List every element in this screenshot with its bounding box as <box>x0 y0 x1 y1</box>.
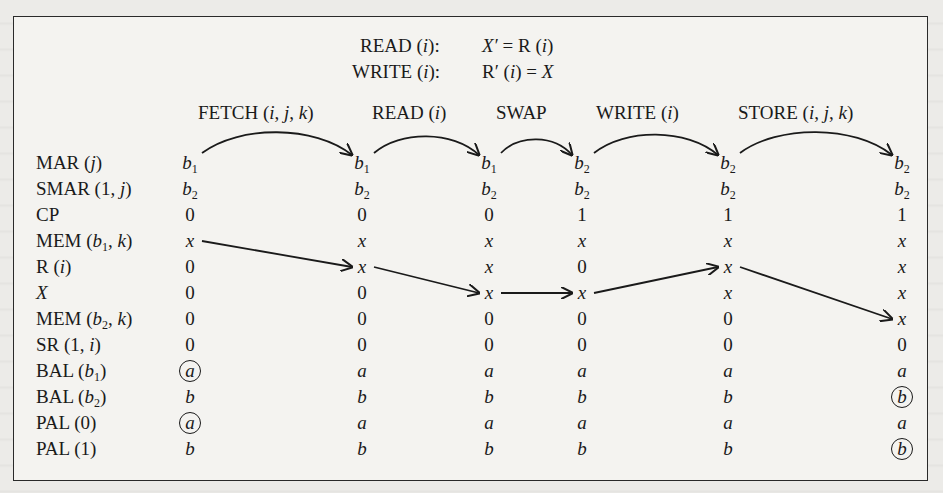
cell-value: x <box>562 230 602 252</box>
cell-value: 0 <box>342 204 382 226</box>
cell-value: a <box>170 412 210 434</box>
cell-value: b <box>469 438 509 460</box>
cell-value: b <box>882 438 922 460</box>
cell-value: 0 <box>708 308 748 330</box>
cell-value: x <box>342 230 382 252</box>
cell-value: 1 <box>708 204 748 226</box>
cell-value: x <box>708 282 748 304</box>
cell-value: x <box>708 230 748 252</box>
cell-value: 0 <box>342 334 382 356</box>
cell-value: 1 <box>882 204 922 226</box>
cell-value: x <box>342 256 382 278</box>
cell-value: 0 <box>170 308 210 330</box>
cell-value: a <box>708 412 748 434</box>
step-header-store: STORE (i, j, k) <box>738 102 853 124</box>
circled-value: a <box>179 412 201 434</box>
definition-read-op: READ (i): <box>360 35 440 57</box>
cell-value: b <box>170 438 210 460</box>
cell-value: x <box>882 308 922 330</box>
definition-write-op: WRITE (i): <box>352 61 440 83</box>
cell-value: x <box>469 282 509 304</box>
cell-value: b <box>882 386 922 408</box>
row-label: MEM (b1, k) <box>36 230 132 252</box>
cell-value: 0 <box>342 282 382 304</box>
cell-value: x <box>708 256 748 278</box>
row-label: X <box>36 282 48 304</box>
cell-value: x <box>882 230 922 252</box>
cell-value: a <box>562 360 602 382</box>
cell-value: b2 <box>342 178 382 200</box>
cell-value: b <box>562 386 602 408</box>
cell-value: 0 <box>469 308 509 330</box>
cell-value: 0 <box>170 334 210 356</box>
cell-value: b2 <box>562 152 602 174</box>
cell-value: b2 <box>469 178 509 200</box>
cell-value: a <box>342 360 382 382</box>
cell-value: b <box>342 386 382 408</box>
cell-value: 0 <box>342 308 382 330</box>
row-label: MAR (j) <box>36 152 102 174</box>
cell-value: b2 <box>708 152 748 174</box>
cell-value: b <box>708 386 748 408</box>
cell-value: x <box>170 230 210 252</box>
cell-value: 0 <box>882 334 922 356</box>
cell-value: a <box>562 412 602 434</box>
row-label: SMAR (1, j) <box>36 178 132 200</box>
cell-value: 0 <box>170 204 210 226</box>
cell-value: 0 <box>469 334 509 356</box>
cell-value: a <box>708 360 748 382</box>
row-label: R (i) <box>36 256 71 278</box>
row-label: CP <box>36 204 59 226</box>
cell-value: b1 <box>342 152 382 174</box>
definition-read-eq: X′ = R (i) <box>482 35 553 57</box>
row-label: BAL (b2) <box>36 386 106 408</box>
cell-value: 0 <box>562 308 602 330</box>
cell-value: a <box>342 412 382 434</box>
cell-value: 1 <box>562 204 602 226</box>
cell-value: x <box>882 282 922 304</box>
row-label: PAL (1) <box>36 438 96 460</box>
step-header-fetch: FETCH (i, j, k) <box>198 102 314 124</box>
circled-value: b <box>891 438 913 460</box>
cell-value: b <box>708 438 748 460</box>
cell-value: 0 <box>562 334 602 356</box>
cell-value: 0 <box>469 204 509 226</box>
cell-value: b2 <box>708 178 748 200</box>
cell-value: b1 <box>469 152 509 174</box>
row-label: MEM (b2, k) <box>36 308 132 330</box>
cell-value: x <box>562 282 602 304</box>
cell-value: a <box>469 360 509 382</box>
cell-value: b1 <box>170 152 210 174</box>
cell-value: a <box>882 412 922 434</box>
cell-value: b2 <box>170 178 210 200</box>
cell-value: 0 <box>170 282 210 304</box>
circled-value: a <box>179 360 201 382</box>
circled-value: b <box>891 386 913 408</box>
cell-value: 0 <box>170 256 210 278</box>
cell-value: a <box>170 360 210 382</box>
cell-value: b <box>170 386 210 408</box>
cell-value: x <box>882 256 922 278</box>
row-label: BAL (b1) <box>36 360 106 382</box>
row-label: PAL (0) <box>36 412 96 434</box>
cell-value: b <box>342 438 382 460</box>
cell-value: 0 <box>708 334 748 356</box>
cell-value: a <box>882 360 922 382</box>
cell-value: b <box>469 386 509 408</box>
cell-value: b2 <box>882 178 922 200</box>
cell-value: b <box>562 438 602 460</box>
step-header-write: WRITE (i) <box>596 102 679 124</box>
cell-value: x <box>469 256 509 278</box>
cell-value: a <box>469 412 509 434</box>
step-header-read: READ (i) <box>372 102 446 124</box>
step-header-swap: SWAP <box>496 102 547 124</box>
cell-value: 0 <box>562 256 602 278</box>
definition-write-eq: R′ (i) = X <box>482 61 553 83</box>
cell-value: x <box>469 230 509 252</box>
cell-value: b2 <box>562 178 602 200</box>
row-label: SR (1, i) <box>36 334 101 356</box>
cell-value: b2 <box>882 152 922 174</box>
